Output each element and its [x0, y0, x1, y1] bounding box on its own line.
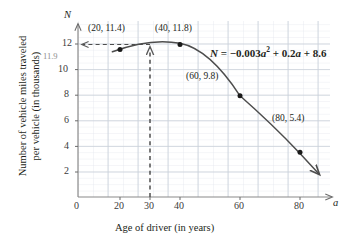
- x-axis-symbol: a: [333, 198, 338, 209]
- data-point: [298, 150, 303, 155]
- data-point: [178, 42, 183, 47]
- x-tick-label-0: 0: [74, 201, 79, 211]
- data-point: [238, 93, 243, 98]
- equation-term2-var: a: [296, 47, 302, 59]
- data-point: [118, 47, 123, 52]
- point-label-40: (40, 11.8): [155, 24, 192, 34]
- y-axis-title-line1: Number of vehicle miles traveled: [16, 16, 29, 196]
- y-axis-symbol: N: [64, 10, 71, 21]
- graph-figure: N a 12 10 8 6 4 2 11.9 0 20 30 40 60 80 …: [0, 0, 345, 246]
- y-tick-label-6: 6: [64, 115, 69, 125]
- y-axis-title: Number of vehicle miles traveled per veh…: [16, 16, 42, 196]
- point-label-80: (80, 5.4): [272, 114, 304, 124]
- y-axis-title-line2: per vehicle (in thousands): [29, 16, 42, 196]
- x-tick-label-40: 40: [174, 201, 184, 211]
- point-label-20: (20, 11.4): [88, 24, 125, 34]
- vertex-y-annotation: 11.9: [43, 52, 58, 61]
- x-tick-label-60: 60: [234, 201, 244, 211]
- equation-term3: + 8.6: [304, 47, 327, 59]
- equation-lhs: N: [210, 47, 218, 59]
- equation-term1-exponent: 2: [266, 45, 270, 54]
- equation-term1-coef: −0.003: [230, 47, 261, 59]
- y-tick-label-12: 12: [62, 38, 72, 48]
- equation-equals: =: [221, 47, 227, 59]
- equation-term2: + 0.2: [273, 47, 296, 59]
- y-tick-label-4: 4: [64, 141, 69, 151]
- point-label-60: (60, 9.8): [186, 72, 218, 82]
- x-tick-label-20: 20: [114, 201, 124, 211]
- x-axis-title: Age of driver (in years): [115, 223, 214, 234]
- y-tick-label-8: 8: [64, 89, 69, 99]
- equation-label: N = −0.003a2 + 0.2a + 8.6: [210, 46, 327, 59]
- y-tick-label-2: 2: [64, 166, 69, 176]
- x-tick-label-30: 30: [144, 201, 154, 211]
- y-tick-label-10: 10: [58, 64, 68, 74]
- x-tick-label-80: 80: [294, 201, 304, 211]
